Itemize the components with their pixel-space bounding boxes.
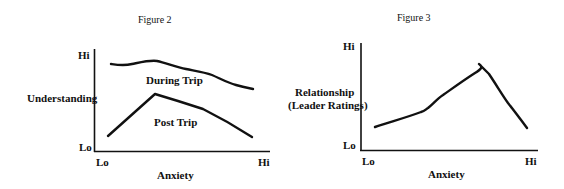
figure2-x-axis-label: Anxiety xyxy=(157,169,194,181)
figure2-title: Figure 2 xyxy=(138,14,172,26)
figure3-title: Figure 3 xyxy=(397,12,431,24)
figure2-x-hi-label: Hi xyxy=(258,156,270,168)
figure3-axes xyxy=(360,43,538,151)
figure2-y-hi-label: Hi xyxy=(78,49,90,61)
figure3-y-axis-label-line1: Relationship xyxy=(295,86,354,98)
figure2-x-lo-label: Lo xyxy=(96,156,109,168)
figure3-y-hi-label: Hi xyxy=(343,40,355,52)
figure2-y-axis-label: Understanding xyxy=(27,92,97,104)
figure3-x-axis-label: Anxiety xyxy=(428,168,465,180)
figure3-x-hi-label: Hi xyxy=(525,155,537,167)
figure3-x-lo-label: Lo xyxy=(362,155,375,167)
figure2-during-trip-label: During Trip xyxy=(146,74,203,86)
figure3-y-lo-label: Lo xyxy=(343,139,356,151)
figure2-post-trip-label: Post Trip xyxy=(154,116,197,128)
figure2-y-lo-label: Lo xyxy=(79,141,92,153)
figure3-y-axis-label-line2: (Leader Ratings) xyxy=(288,99,368,111)
figure3-relationship-line xyxy=(375,64,527,128)
